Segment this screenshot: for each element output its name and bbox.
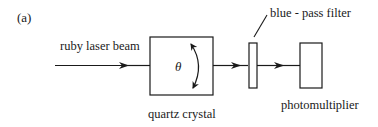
- filter-leader-line: [254, 15, 267, 37]
- photomultiplier-label: photomultiplier: [281, 98, 360, 112]
- input-beam-label: ruby laser beam: [60, 39, 140, 53]
- filter-label: blue - pass filter: [270, 6, 352, 20]
- crystal-label: quartz crystal: [148, 107, 216, 121]
- rotation-arrow-icon: [191, 44, 199, 88]
- blue-pass-filter: [249, 43, 257, 88]
- setup-diagram: (a) ruby laser beam θ quartz crystal blu…: [0, 0, 378, 127]
- panel-label: (a): [17, 10, 31, 25]
- photomultiplier-box: [300, 43, 322, 88]
- quartz-crystal-box: [150, 37, 213, 95]
- theta-symbol: θ: [175, 59, 182, 74]
